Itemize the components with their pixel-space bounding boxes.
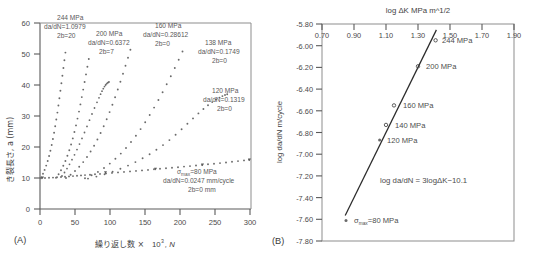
b-xtick-110: 1.10 xyxy=(379,31,393,40)
b-xtick-090: 0.90 xyxy=(347,31,361,40)
b-xtick-070: 0.70 xyxy=(315,31,329,40)
b-ytick-640: -6.40 xyxy=(296,85,313,94)
ann-244-l2: da/dN=1.0979 xyxy=(44,23,86,30)
ann-200-l2: da/dN=0.6372 xyxy=(88,39,130,46)
xtick-150: 150 xyxy=(139,218,152,227)
panel-b-points xyxy=(345,39,438,222)
point-244mpa xyxy=(434,39,437,42)
b-ytick-680: -6.80 xyxy=(296,129,313,138)
b-ytick-780: -7.80 xyxy=(296,237,313,246)
annotation-120mpa: 120 MPa da/dN=0.1319 2b=0 xyxy=(203,87,245,112)
ann-80-l2: da/dN=0.0247 mm/cycle xyxy=(163,177,235,185)
panel-a-xlabel-base: 10 xyxy=(152,240,161,249)
panel-b-ytick-labels: -5.80 -6.00 -6.20 -6.40 -6.60 -6.80 -7.0… xyxy=(296,20,313,246)
xtick-0: 0 xyxy=(38,218,42,227)
point-80mpa xyxy=(345,219,348,222)
b-ytick-620: -6.20 xyxy=(296,63,313,72)
b-label-80: σmax=80 MPa xyxy=(354,216,399,226)
b-label-200: 200 MPa xyxy=(426,62,457,71)
ann-138-l3: 2b=0 xyxy=(212,57,227,64)
ann-244-l1: 244 MPa xyxy=(57,14,84,21)
xtick-100: 100 xyxy=(104,218,117,227)
annotation-160mpa: 160 MPa da/dN=0.28612 2b=0 xyxy=(143,22,189,47)
point-140mpa xyxy=(384,123,387,126)
ann-80-sigma: σmax=80 MPa xyxy=(177,168,217,177)
ann-80-l3: 2b=0 mm xyxy=(188,186,216,193)
series-138mpa xyxy=(84,51,183,180)
b-ytick-600: -6.00 xyxy=(296,42,313,51)
panel-a-ytick-labels: 0 10 20 30 40 50 60 xyxy=(22,19,30,214)
ann-244-l3: 2b=20 xyxy=(57,32,76,39)
ann-138-l2: da/dN=0.1749 xyxy=(198,48,240,55)
b-ytick-720: -7.20 xyxy=(296,172,313,181)
ytick-50: 50 xyxy=(22,50,30,59)
ann-200-l3: 2b=7 xyxy=(99,48,114,55)
ann-120-l3: 2b=0 xyxy=(217,105,232,112)
xtick-50: 50 xyxy=(71,218,79,227)
point-160mpa xyxy=(392,104,395,107)
panel-b-equation: log da/dN = 3logΔK−10.1 xyxy=(380,176,467,185)
xtick-300: 300 xyxy=(244,218,257,227)
ann-160-l1: 160 MPa xyxy=(155,22,182,29)
panel-b: 0.70 0.90 1.10 1.30 1.50 1.70 1.90 -5.80… xyxy=(270,0,534,261)
panel-a-xlabel: 繰り返し数 × 10 3 , N xyxy=(95,238,175,249)
panel-b-axes xyxy=(316,24,514,241)
panel-a-xlabel-tail: , N xyxy=(165,240,175,249)
series-200mpa-a xyxy=(55,58,90,179)
ytick-10: 10 xyxy=(22,174,30,183)
b-ytick-660: -6.60 xyxy=(296,107,313,116)
annotation-138mpa: 138 MPa da/dN=0.1749 2b=0 xyxy=(198,39,240,64)
panel-a-xlabel-jp: 繰り返し数 × xyxy=(95,239,144,249)
panel-b-plot: 0.70 0.90 1.10 1.30 1.50 1.70 1.90 -5.80… xyxy=(270,0,534,261)
panel-a: 0 10 20 30 40 50 60 0 50 100 150 200 250… xyxy=(0,0,270,261)
ann-160-l3: 2b=0 xyxy=(155,40,170,47)
b-label-160: 160 MPa xyxy=(403,101,434,110)
b-ytick-700: -7.00 xyxy=(296,150,313,159)
b-xtick-170: 1.70 xyxy=(475,31,489,40)
ytick-20: 20 xyxy=(22,143,30,152)
panel-b-caption: (B) xyxy=(272,236,284,246)
b-xtick-190: 1.90 xyxy=(507,31,521,40)
panel-a-xlabel-exp: 3 xyxy=(161,238,164,244)
b-ytick-760: -7.60 xyxy=(296,215,313,224)
panel-a-plot: 0 10 20 30 40 50 60 0 50 100 150 200 250… xyxy=(0,0,270,261)
ytick-60: 60 xyxy=(22,19,30,28)
point-120mpa xyxy=(378,139,381,142)
panel-a-caption: (A) xyxy=(14,235,26,245)
ann-160-l2: da/dN=0.28612 xyxy=(143,31,189,38)
ytick-40: 40 xyxy=(22,81,30,90)
ann-200-l1: 200 MPa xyxy=(96,30,123,37)
panel-b-xlabel: log ΔK MPa m^1/2 xyxy=(386,6,450,15)
ann-138-l1: 138 MPa xyxy=(205,39,232,46)
ann-120-l1: 120 MPa xyxy=(212,87,239,94)
series-244mpa xyxy=(40,52,66,179)
annotation-244mpa: 244 MPa da/dN=1.0979 2b=20 xyxy=(44,14,86,39)
xtick-200: 200 xyxy=(174,218,187,227)
ann-120-l2: da/dN=0.1319 xyxy=(203,96,245,103)
panel-b-ylabel: log da/dN m/cycle xyxy=(275,101,284,163)
figure-container: 0 10 20 30 40 50 60 0 50 100 150 200 250… xyxy=(0,0,534,261)
panel-b-xtick-labels: 0.70 0.90 1.10 1.30 1.50 1.70 1.90 xyxy=(315,31,521,40)
b-label-244: 244 MPa xyxy=(442,36,473,45)
series-200mpa-b xyxy=(61,81,110,177)
ytick-30: 30 xyxy=(22,112,30,121)
xtick-250: 250 xyxy=(209,218,222,227)
series-120mpa xyxy=(87,93,228,179)
b-label-140: 140 MPa xyxy=(395,121,426,130)
series-160mpa xyxy=(65,49,131,179)
b-label-120: 120 MPa xyxy=(387,136,418,145)
b-ytick-580: -5.80 xyxy=(296,20,313,29)
b-ytick-740: -7.40 xyxy=(296,194,313,203)
ytick-0: 0 xyxy=(26,205,30,214)
b-xtick-130: 1.30 xyxy=(411,31,425,40)
panel-b-point-labels: 244 MPa 200 MPa 160 MPa 140 MPa 120 MPa … xyxy=(354,36,473,226)
panel-a-ylabel: き裂長さ, a (mm) xyxy=(5,117,15,183)
annotation-80mpa: σmax=80 MPa da/dN=0.0247 mm/cycle 2b=0 m… xyxy=(163,168,235,193)
panel-a-xtick-labels: 0 50 100 150 200 250 300 xyxy=(38,218,256,227)
annotation-200mpa: 200 MPa da/dN=0.6372 2b=7 xyxy=(88,30,130,55)
